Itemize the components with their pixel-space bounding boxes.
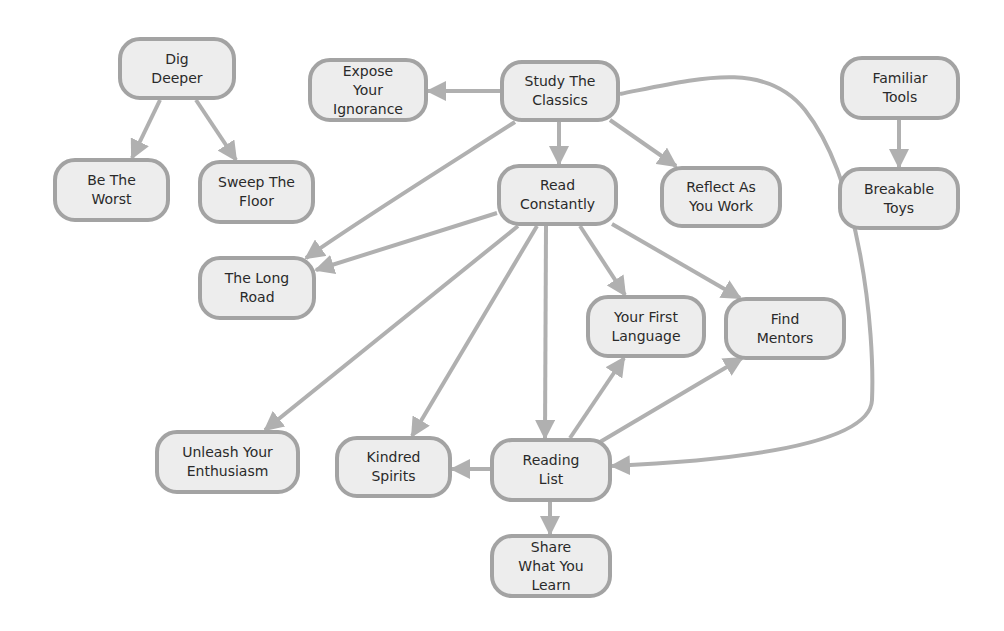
node-dig-deeper[interactable]: Dig Deeper <box>118 37 236 100</box>
node-label: Study The Classics <box>525 72 596 110</box>
node-label: Kindred Spirits <box>367 448 421 486</box>
node-label: Find Mentors <box>757 310 814 348</box>
node-kindred-spirits[interactable]: Kindred Spirits <box>335 436 452 498</box>
edge-reading-list-to-find-mentors <box>600 358 742 442</box>
node-label: Expose Your Ignorance <box>333 62 403 119</box>
node-label: Familiar Tools <box>873 69 928 107</box>
edge-study-the-classics-to-reflect-as-you-work <box>610 120 676 166</box>
edge-dig-deeper-to-sweep-the-floor <box>196 100 236 160</box>
edge-read-constantly-to-unleash-your-enthusiasm <box>265 226 518 430</box>
node-find-mentors[interactable]: Find Mentors <box>724 297 846 360</box>
node-label: Read Constantly <box>520 176 595 214</box>
node-reflect-as-you-work[interactable]: Reflect As You Work <box>660 166 782 228</box>
node-label: Be The Worst <box>87 171 136 209</box>
node-be-the-worst[interactable]: Be The Worst <box>53 158 170 222</box>
node-label: Sweep The Floor <box>218 173 295 211</box>
node-read-constantly[interactable]: Read Constantly <box>497 164 618 226</box>
node-label: Breakable Toys <box>864 180 934 218</box>
node-the-long-road[interactable]: The Long Road <box>198 256 316 320</box>
node-label: The Long Road <box>225 269 289 307</box>
node-share-what-you-learn[interactable]: Share What You Learn <box>490 534 612 598</box>
node-breakable-toys[interactable]: Breakable Toys <box>838 167 960 230</box>
node-your-first-language[interactable]: Your First Language <box>586 295 706 358</box>
edge-study-the-classics-to-reading-list <box>612 77 872 466</box>
node-reading-list[interactable]: Reading List <box>490 438 612 502</box>
node-label: Dig Deeper <box>151 50 202 88</box>
edge-read-constantly-to-your-first-language <box>580 226 625 295</box>
edge-dig-deeper-to-be-the-worst <box>132 100 160 158</box>
edge-read-constantly-to-find-mentors <box>612 224 740 298</box>
node-label: Share What You Learn <box>518 538 583 595</box>
node-label: Your First Language <box>611 308 680 346</box>
edge-read-constantly-to-kindred-spirits <box>412 226 537 436</box>
node-label: Reflect As You Work <box>686 178 756 216</box>
node-label: Unleash Your Enthusiasm <box>182 443 273 481</box>
edge-read-constantly-to-the-long-road <box>316 213 497 270</box>
node-label: Reading List <box>523 451 580 489</box>
node-sweep-the-floor[interactable]: Sweep The Floor <box>198 160 315 224</box>
node-expose-your-ignorance[interactable]: Expose Your Ignorance <box>308 58 428 122</box>
edge-study-the-classics-to-the-long-road <box>306 122 515 258</box>
node-study-the-classics[interactable]: Study The Classics <box>500 60 620 122</box>
edge-read-constantly-to-reading-list <box>545 226 546 438</box>
node-familiar-tools[interactable]: Familiar Tools <box>840 56 960 120</box>
node-unleash-your-enthusiasm[interactable]: Unleash Your Enthusiasm <box>155 430 300 494</box>
edge-reading-list-to-your-first-language <box>570 358 624 438</box>
